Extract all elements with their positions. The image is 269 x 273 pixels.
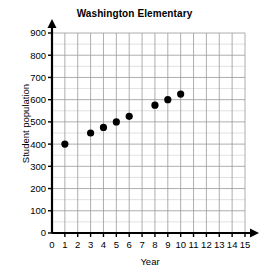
x-tick-label: 13 (214, 239, 225, 250)
x-tick-label: 9 (165, 239, 170, 250)
y-tick-label: 600 (30, 94, 46, 105)
data-point (113, 118, 120, 125)
scatter-plot: 0100200300400500600700800900 01234567891… (0, 0, 269, 273)
data-point (100, 124, 107, 131)
y-tick-label: 700 (30, 72, 46, 83)
x-tick-label: 15 (240, 239, 251, 250)
chart-container: Washington Elementary Student population… (0, 0, 269, 273)
y-axis-ticks: 0100200300400500600700800900 (30, 27, 52, 238)
data-point (151, 102, 158, 109)
data-points (61, 91, 184, 148)
data-point (87, 129, 94, 136)
data-point (177, 91, 184, 98)
x-tick-label: 12 (201, 239, 212, 250)
y-tick-label: 400 (30, 139, 46, 150)
y-tick-label: 200 (30, 183, 46, 194)
x-tick-label: 0 (49, 239, 54, 250)
y-tick-label: 800 (30, 50, 46, 61)
y-tick-label: 500 (30, 116, 46, 127)
minor-gridlines (52, 44, 245, 222)
x-tick-label: 6 (127, 239, 132, 250)
x-tick-label: 4 (101, 239, 106, 250)
x-tick-label: 14 (227, 239, 238, 250)
y-tick-label: 900 (30, 27, 46, 38)
y-tick-label: 0 (41, 227, 46, 238)
x-tick-label: 5 (114, 239, 119, 250)
x-tick-label: 1 (62, 239, 67, 250)
data-point (61, 141, 68, 148)
data-point (126, 113, 133, 120)
y-tick-label: 100 (30, 205, 46, 216)
axis-lines (48, 19, 260, 238)
x-axis-ticks: 0123456789101112131415 (49, 233, 250, 250)
x-tick-label: 8 (152, 239, 157, 250)
x-tick-label: 3 (88, 239, 93, 250)
x-tick-label: 7 (139, 239, 144, 250)
data-point (164, 96, 171, 103)
x-tick-label: 2 (75, 239, 80, 250)
y-tick-label: 300 (30, 161, 46, 172)
x-tick-label: 10 (175, 239, 186, 250)
x-tick-label: 11 (189, 239, 199, 250)
